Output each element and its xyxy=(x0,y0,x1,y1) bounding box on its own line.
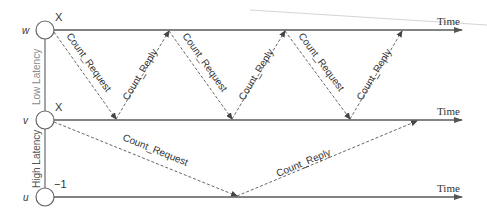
msg-label-request-long: Count_Request xyxy=(121,132,190,168)
time-label-w: Time xyxy=(437,15,460,27)
node-v: v X xyxy=(23,101,63,129)
time-label-v: Time xyxy=(437,105,460,117)
msg-label-request-1: Count_Request xyxy=(64,31,113,94)
node-u-value: −1 xyxy=(54,178,67,190)
msg-arrow-request-1 xyxy=(54,32,116,119)
message-sequence-diagram: Time Time Time w X v X u −1 Low Latency … xyxy=(0,0,487,215)
msg-arrow-request-2 xyxy=(169,31,232,119)
node-w-value: X xyxy=(55,11,63,23)
time-label-u: Time xyxy=(437,182,460,194)
node-u-label: u xyxy=(23,192,29,203)
msg-label-request-2: Count_Request xyxy=(180,31,229,94)
msg-arrow-request-3 xyxy=(285,31,350,119)
node-w: w X xyxy=(22,11,63,39)
low-latency-label: Low Latency xyxy=(31,49,42,105)
msg-arrow-request-long xyxy=(54,122,237,196)
msg-label-reply-long: Count_Reply xyxy=(275,146,333,178)
node-v-label: v xyxy=(23,115,29,126)
node-w-label: w xyxy=(22,25,30,36)
msg-label-reply-1: Count_Reply xyxy=(120,47,159,102)
node-v-value: X xyxy=(55,101,63,113)
high-latency-label: High Latency xyxy=(31,130,42,188)
msg-label-reply-3: Count_Reply xyxy=(354,47,393,102)
msg-label-request-3: Count_Request xyxy=(296,31,346,94)
msg-label-reply-2: Count_Reply xyxy=(236,47,275,102)
